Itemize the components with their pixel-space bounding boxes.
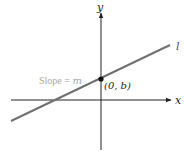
y-intercept-point <box>98 76 103 81</box>
line-l <box>11 45 170 121</box>
y-axis-label: y <box>96 1 104 14</box>
slope-variable: m <box>72 75 81 86</box>
slope-prefix: Slope = <box>39 75 72 86</box>
intercept-label: (0, b) <box>104 80 131 91</box>
diagram-canvas: y x l (0, b) Slope = m <box>0 0 184 159</box>
line-label: l <box>176 40 180 53</box>
slope-annotation: Slope = m <box>39 75 82 86</box>
x-axis-label: x <box>175 94 182 107</box>
